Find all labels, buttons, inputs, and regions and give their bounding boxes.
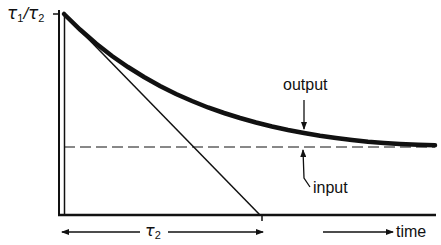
tau2-symbol: τ (28, 3, 38, 23)
y-axis-label: τ1/τ2 (7, 5, 44, 24)
input-pointer-arrow (303, 150, 310, 187)
tau-subscript: 2 (155, 229, 161, 241)
tau2-interval-label: τ2 (145, 223, 161, 241)
input-label: input (313, 180, 348, 196)
tau-symbol: τ (145, 221, 155, 240)
diagram-canvas (0, 0, 441, 245)
tau2-subscript: 2 (38, 12, 44, 24)
tau1-symbol: τ (7, 3, 17, 23)
output-curve (64, 14, 435, 145)
x-axis-label: time (396, 224, 426, 240)
output-label: output (283, 77, 327, 93)
